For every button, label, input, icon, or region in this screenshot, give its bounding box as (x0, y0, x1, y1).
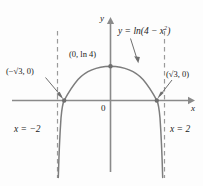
graph-figure: y x 0 y = ln(4 − x2) (0, ln 4) (−√3, 0) … (0, 0, 203, 186)
equation-label-prefix: y = ln(4 − x (118, 26, 164, 36)
graph-canvas (0, 0, 203, 186)
left-asymptote-label: x = −2 (14, 125, 41, 135)
equation-leader-line (131, 39, 140, 64)
vertex-label: (0, ln 4) (69, 50, 96, 59)
point-left-intercept (62, 98, 66, 102)
left-intercept-leader-line (46, 78, 64, 100)
left-intercept-label: (−√3, 0) (6, 67, 34, 76)
point-vertex (108, 64, 112, 68)
equation-label-suffix: ) (167, 26, 170, 36)
point-right-intercept (155, 98, 159, 102)
y-axis-label: y (100, 14, 104, 23)
equation-label: y = ln(4 − x2) (118, 25, 170, 37)
x-axis-label: x (191, 104, 195, 113)
right-intercept-label: (√3, 0) (166, 70, 189, 79)
right-asymptote-label: x = 2 (170, 125, 190, 135)
y-axis (107, 17, 114, 172)
origin-label: 0 (101, 104, 106, 113)
